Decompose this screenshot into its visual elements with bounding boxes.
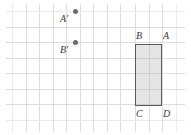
gridline-vertical (120, 4, 121, 132)
gridline-vertical (107, 4, 108, 132)
label-a-prime: A′ (60, 14, 68, 24)
gridline-horizontal (6, 27, 185, 28)
label-b-prime: B′ (60, 45, 68, 55)
gridline-vertical (12, 4, 13, 132)
label-vertex-c: C (136, 109, 143, 119)
gridline-horizontal (6, 11, 185, 12)
point-b-prime (73, 40, 78, 45)
gridline-horizontal (6, 120, 185, 121)
geometry-figure: A′ B′ B A C D (0, 0, 191, 135)
gridline-vertical (39, 4, 40, 132)
gridline-horizontal (6, 42, 185, 43)
gridline-vertical (93, 4, 94, 132)
rectangle-abcd (135, 44, 162, 106)
gridline-vertical (176, 4, 177, 132)
point-a-prime (73, 9, 78, 14)
gridline-vertical (26, 4, 27, 132)
gridline-vertical (53, 4, 54, 132)
label-vertex-b: B (136, 31, 142, 41)
label-vertex-d: D (163, 109, 170, 119)
gridline-vertical (80, 4, 81, 132)
label-vertex-a: A (163, 31, 169, 41)
